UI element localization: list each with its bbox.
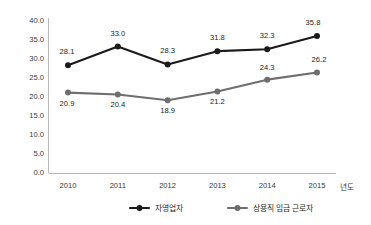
- y-tick-label: 20.0: [29, 92, 44, 101]
- data-point-label: 32.3: [260, 31, 275, 40]
- data-point-label: 24.3: [260, 63, 275, 72]
- x-axis-tick-labels: 201020112012201320142015: [60, 181, 326, 190]
- series-line: [68, 36, 317, 65]
- line-chart: 0.05.010.015.020.025.030.035.040.0 28.13…: [0, 0, 371, 225]
- series-group: 28.133.028.331.832.335.820.920.418.921.2…: [60, 18, 327, 115]
- data-point-marker: [214, 48, 220, 54]
- data-point-marker: [165, 97, 171, 103]
- data-point-label: 21.2: [210, 97, 225, 106]
- data-point-marker: [214, 88, 220, 94]
- y-tick-label: 40.0: [29, 16, 44, 25]
- x-tick-label: 2014: [259, 181, 276, 190]
- y-tick-label: 5.0: [33, 149, 44, 158]
- x-tick-label: 2013: [209, 181, 226, 190]
- legend-marker-icon: [235, 205, 241, 211]
- x-tick-label: 2011: [110, 181, 126, 190]
- data-point-marker: [65, 90, 71, 96]
- data-point-label: 28.1: [60, 47, 75, 56]
- data-point-label: 35.8: [306, 18, 321, 27]
- data-point-label: 31.8: [210, 33, 225, 42]
- data-point-marker: [165, 61, 171, 67]
- y-axis-tick-labels: 0.05.010.015.020.025.030.035.040.0: [29, 16, 44, 177]
- chart-canvas: 0.05.010.015.020.025.030.035.040.0 28.13…: [0, 0, 371, 225]
- data-point-marker: [115, 91, 121, 97]
- y-tick-label: 30.0: [29, 54, 44, 63]
- y-tick-label: 35.0: [29, 35, 44, 44]
- y-tick-label: 10.0: [29, 130, 44, 139]
- legend-marker-icon: [137, 205, 143, 211]
- legend-label: 자영업자: [155, 203, 183, 213]
- x-tick-label: 2012: [159, 181, 176, 190]
- data-point-marker: [115, 44, 121, 50]
- y-tick-label: 15.0: [29, 111, 44, 120]
- data-point-label: 20.9: [60, 99, 75, 108]
- x-axis-title: 년도: [340, 182, 354, 192]
- x-tick-label: 2010: [60, 181, 77, 190]
- data-point-label: 33.0: [110, 29, 125, 38]
- data-point-marker: [264, 77, 270, 83]
- legend-label: 상용직 임금 근로자: [253, 203, 313, 213]
- data-point-label: 18.9: [160, 106, 175, 115]
- data-point-marker: [65, 62, 71, 68]
- series-line: [68, 72, 317, 100]
- data-point-label: 28.3: [160, 46, 175, 55]
- data-point-label: 20.4: [110, 100, 125, 109]
- y-tick-label: 25.0: [29, 73, 44, 82]
- data-point-marker: [314, 33, 320, 39]
- x-tick-label: 2015: [309, 181, 326, 190]
- data-point-label: 26.2: [312, 55, 327, 64]
- data-point-marker: [264, 46, 270, 52]
- data-point-marker: [314, 69, 320, 75]
- chart-legend: 자영업자상용직 임금 근로자: [130, 203, 313, 213]
- y-tick-label: 0.0: [33, 168, 44, 177]
